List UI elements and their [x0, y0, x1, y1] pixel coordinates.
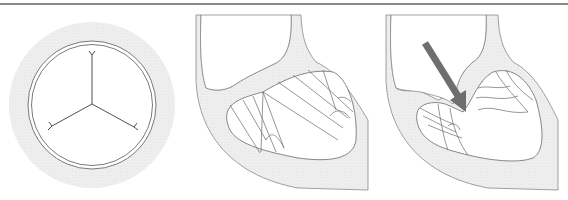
- heart-section-icon: [188, 0, 378, 200]
- valve-top-view-panel: [0, 0, 188, 200]
- heart-closed-valve-panel: [188, 0, 378, 200]
- heart-regurgitation-panel: [378, 0, 568, 200]
- valve-ring-icon: [0, 0, 188, 200]
- heart-regurgitation-icon: [378, 0, 568, 200]
